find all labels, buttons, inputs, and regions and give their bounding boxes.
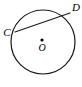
chord-cd-line [15, 13, 70, 32]
label-point-d: D [71, 1, 80, 13]
circle-chord-figure: O C D [0, 0, 82, 87]
geometry-diagram: O C D [0, 0, 82, 87]
label-center-o: O [38, 42, 45, 53]
label-point-c: C [3, 26, 11, 38]
